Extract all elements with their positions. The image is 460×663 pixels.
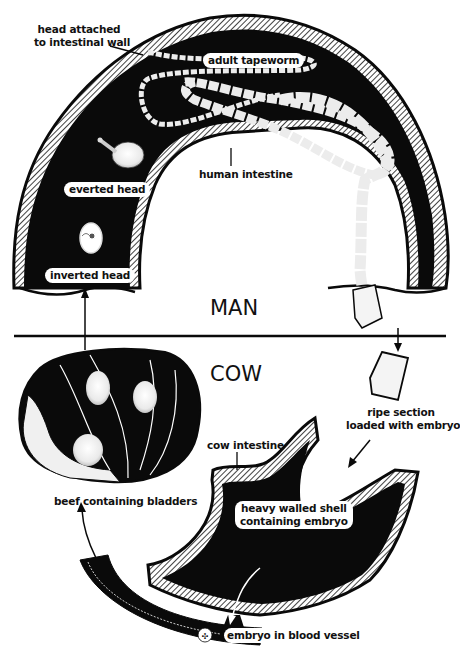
label-head-attached-line2: to intestinal wall — [34, 36, 124, 49]
bladder — [73, 434, 103, 466]
section-title-cow: COW — [210, 362, 262, 386]
label-heavy-walled-line2: containing embryo — [240, 515, 348, 528]
label-heavy-walled-shell: heavy walled shell containing embryo — [235, 501, 353, 529]
inverted-head-illustration — [80, 223, 102, 253]
label-ripe-section-line2: loaded with embryos — [346, 419, 456, 432]
bladder — [86, 371, 110, 405]
label-ripe-section: ripe section loaded with embryos — [346, 406, 456, 432]
label-ripe-section-line1: ripe section — [346, 406, 456, 419]
arrow-vessel-to-beef — [77, 502, 96, 558]
label-cow-intestine: cow intestine — [207, 439, 284, 452]
label-beef-containing-bladders: beef containing bladders — [54, 495, 197, 508]
ripe-section-illustration — [370, 352, 408, 400]
label-inverted-head: inverted head — [45, 268, 135, 283]
label-everted-head: everted head — [64, 182, 150, 197]
arrow-to-ripe-section — [394, 328, 402, 352]
arrow-ripe-to-cow-intestine — [348, 440, 370, 468]
label-heavy-walled-line1: heavy walled shell — [240, 502, 348, 515]
label-human-intestine: human intestine — [199, 168, 293, 181]
label-head-attached: head attached to intestinal wall — [34, 23, 124, 49]
beef-illustration — [19, 349, 200, 482]
terminal-segment — [353, 285, 382, 328]
label-adult-tapeworm: adult tapeworm — [203, 53, 304, 68]
section-title-man: MAN — [210, 296, 258, 320]
arrow-beef-to-man — [81, 288, 89, 350]
svg-text:✣: ✣ — [202, 632, 209, 641]
label-embryo-in-blood-vessel: embryo in blood vessel — [224, 628, 365, 643]
label-head-attached-line1: head attached — [34, 23, 124, 36]
tapeworm-lifecycle-diagram: ✣ ✣ — [0, 0, 460, 663]
bladder — [133, 381, 157, 413]
